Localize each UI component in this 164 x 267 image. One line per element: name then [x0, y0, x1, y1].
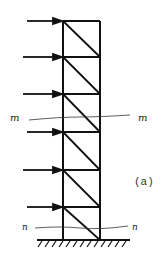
section-label-n-left: n: [22, 222, 28, 232]
tower-frame: [63, 21, 100, 240]
section-label-m-right: m: [138, 112, 147, 123]
section-line-n: [35, 226, 128, 229]
figure-caption: (a): [134, 176, 154, 188]
ground-support: [37, 240, 130, 247]
load-arrows: [23, 18, 62, 210]
section-line-m: [29, 115, 130, 120]
section-label-n-right: n: [132, 222, 138, 232]
section-label-m-left: m: [10, 112, 19, 123]
